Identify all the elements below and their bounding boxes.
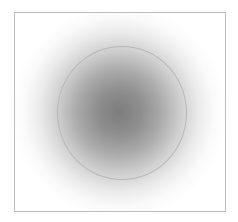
image-frame [14,12,226,212]
circle-outline [57,46,187,180]
